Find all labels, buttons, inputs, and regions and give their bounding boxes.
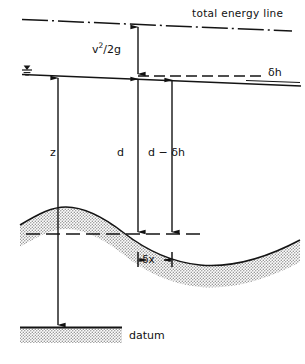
datum-band [20, 328, 122, 344]
water-level-symbol [22, 66, 32, 76]
channel-bed [20, 207, 300, 288]
specific-energy-channel-diagram: total energy line v2/2g δh z d d − δh δx… [0, 0, 305, 364]
diagram-canvas [0, 0, 305, 364]
velocity-head-label: v2/2g [92, 44, 121, 55]
delta-h-lower-tick [246, 81, 300, 83]
delta-x-label: δx [142, 254, 155, 265]
velocity-head-denominator: /2g [103, 43, 121, 56]
depth-z-label: z [50, 147, 56, 158]
total-energy-line [22, 20, 292, 32]
datum-label: datum [129, 330, 165, 341]
total-energy-line-label: total energy line [192, 8, 283, 19]
datum-stipple-fill [20, 328, 122, 343]
bed-stipple-fill [20, 207, 300, 288]
depth-d-label: d [117, 147, 124, 158]
depth-d-minus-delta-h-label: d − δh [148, 147, 185, 158]
delta-h-label: δh [268, 67, 282, 78]
